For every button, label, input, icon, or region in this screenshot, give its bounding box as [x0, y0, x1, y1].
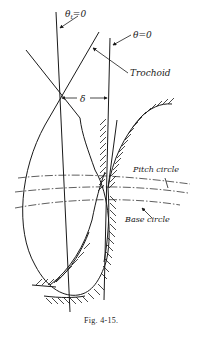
theta-leader	[113, 35, 131, 45]
trochoid-loop	[23, 118, 109, 295]
mating-tooth-right-hatched	[108, 98, 174, 188]
inner-tooth-curve-2	[56, 232, 89, 282]
base-circle-arc	[15, 200, 180, 208]
figure-caption: Fig. 4-15.	[84, 316, 118, 325]
inner-tooth-curve	[50, 172, 105, 285]
base-circle-label: Base circle	[124, 215, 170, 224]
theta-label: θ=0	[133, 30, 152, 40]
trochoid-leader	[93, 48, 128, 73]
pitch-circle-label: Pitch circle	[132, 165, 179, 174]
trochoid-label: Trochoid	[130, 68, 171, 78]
trochoid-branch-right	[45, 32, 99, 125]
pitch-circle-leader	[165, 178, 168, 188]
lower-right-flank-hatched	[101, 188, 116, 279]
delta-label: δ	[80, 94, 85, 104]
trochoid-branch-left	[26, 50, 80, 118]
gear-trochoid-diagram: θt=0 θ=0 Trochoid δ Pitch circle Base ci…	[0, 0, 197, 338]
theta-t-label: θt=0	[65, 9, 86, 20]
